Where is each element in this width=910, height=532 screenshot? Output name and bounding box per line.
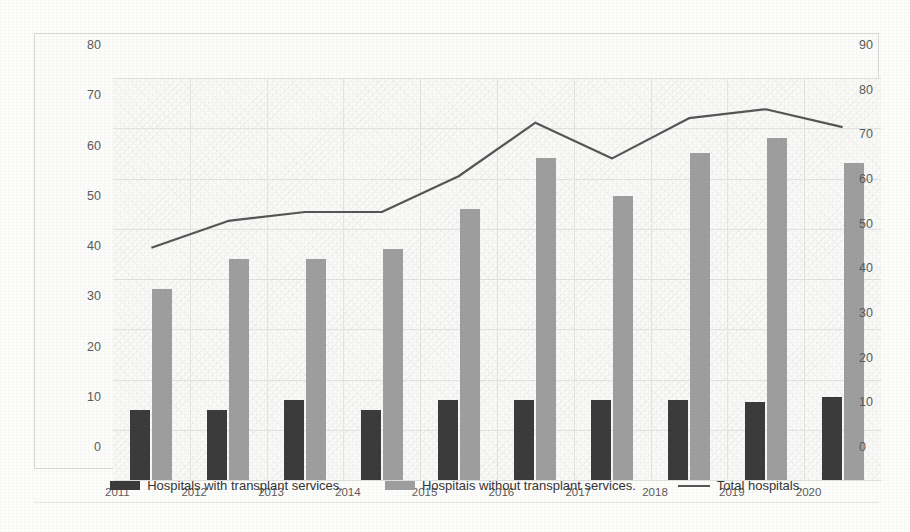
right-axis-tick-20: 20: [859, 352, 895, 364]
right-axis-tick-0: 0: [859, 441, 895, 453]
legend-label: Hospitais without transplant services.: [422, 478, 636, 493]
legend-item-with-transplant[interactable]: Hospitals with transplant services.: [110, 478, 343, 493]
left-axis-tick-30: 30: [65, 290, 101, 302]
right-axis-tick-90: 90: [859, 39, 895, 51]
right-axis-tick-50: 50: [859, 218, 895, 230]
left-axis-tick-80: 80: [65, 39, 101, 51]
legend-divider: [34, 502, 879, 503]
chart-legend: Hospitals with transplant services. Hosp…: [34, 478, 879, 493]
left-axis-tick-70: 70: [65, 89, 101, 101]
bar-dark-swatch-icon: [110, 481, 140, 490]
left-axis-tick-40: 40: [65, 240, 101, 252]
bar-gray-swatch-icon: [385, 481, 415, 490]
chart-frame: 01020304050607080 0102030405060708090 20…: [34, 33, 879, 469]
left-axis-tick-20: 20: [65, 341, 101, 353]
right-axis-tick-80: 80: [859, 84, 895, 96]
left-axis-tick-0: 0: [65, 441, 101, 453]
left-axis-tick-50: 50: [65, 190, 101, 202]
right-axis-tick-60: 60: [859, 173, 895, 185]
right-axis-tick-40: 40: [859, 262, 895, 274]
legend-label: Total hospitals.: [717, 478, 803, 493]
right-axis-tick-10: 10: [859, 396, 895, 408]
line-series-total-hospitals: [113, 78, 881, 480]
left-axis-tick-60: 60: [65, 140, 101, 152]
legend-item-total-hospitals[interactable]: Total hospitals.: [678, 478, 803, 493]
plot-area: [113, 78, 881, 480]
total-hospitals-line-path: [151, 109, 842, 247]
line-swatch-icon: [678, 485, 710, 487]
legend-label: Hospitals with transplant services.: [147, 478, 343, 493]
right-axis-tick-70: 70: [859, 128, 895, 140]
legend-item-without-transplant[interactable]: Hospitais without transplant services.: [385, 478, 636, 493]
right-axis-tick-30: 30: [859, 307, 895, 319]
left-axis-tick-10: 10: [65, 391, 101, 403]
